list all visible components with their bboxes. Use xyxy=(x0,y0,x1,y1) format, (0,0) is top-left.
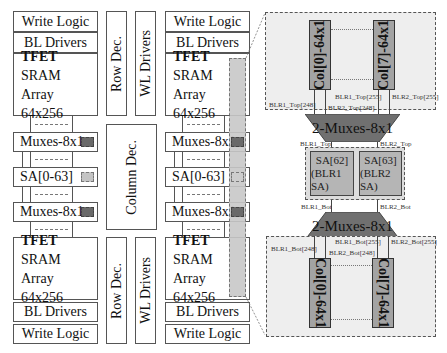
bitline xyxy=(325,236,326,258)
label: Col[7]-64x1 xyxy=(376,20,392,90)
bitline xyxy=(388,236,389,258)
sense-amp-62: SA[62] (BLR1 SA) xyxy=(310,151,354,196)
label: 2-Muxes-8x1 xyxy=(312,120,393,137)
ellipsis-divider xyxy=(331,29,373,30)
bitline xyxy=(325,90,326,116)
label: (BLR1 SA) xyxy=(311,167,353,193)
label: Col[0]-64x1 xyxy=(312,20,328,90)
bitline-label: BLR2_Bot[255] xyxy=(391,238,437,246)
bottom-col-0: Col[0]-64x1 xyxy=(309,258,331,328)
top-col-7: Col[7]-64x1 xyxy=(373,20,395,90)
bitline-label: BLR1_Top[248] xyxy=(269,101,316,109)
bitline-label: BLR2_Bot[248] xyxy=(329,249,375,257)
ellipsis-divider xyxy=(331,319,372,320)
ellipsis-divider xyxy=(331,79,373,80)
label: 2-Muxes-8x1 xyxy=(312,218,393,235)
bitline-label: BLR2_Top[255] xyxy=(392,93,439,101)
sa-input-label: BLR1_Bot xyxy=(301,203,332,211)
label: Col[7]-64x1 xyxy=(375,258,391,328)
sense-amp-63: SA[63] (BLR2 SA) xyxy=(359,151,402,196)
bottom-col-7: Col[7]-64x1 xyxy=(372,258,394,328)
sa-input-label: BLR2_Bot xyxy=(380,203,411,211)
label: SA[62] xyxy=(316,154,348,167)
bitline-label: BLR1_Bot[248] xyxy=(271,245,317,253)
label: SA[63] xyxy=(364,154,396,167)
label: (BLR2 SA) xyxy=(360,167,401,193)
top-col-0: Col[0]-64x1 xyxy=(309,20,331,90)
top-2-mux-8x1: 2-Muxes-8x1 xyxy=(305,114,400,142)
bitline-label: BLR1_Top[255] xyxy=(335,93,382,101)
label: Col[0]-64x1 xyxy=(312,258,328,328)
bitline xyxy=(389,90,390,116)
bitline-label: BLR2_Top[248] xyxy=(328,104,375,112)
ellipsis-divider xyxy=(331,265,372,266)
bitline-label: BLR1_Bot[255] xyxy=(335,238,381,246)
